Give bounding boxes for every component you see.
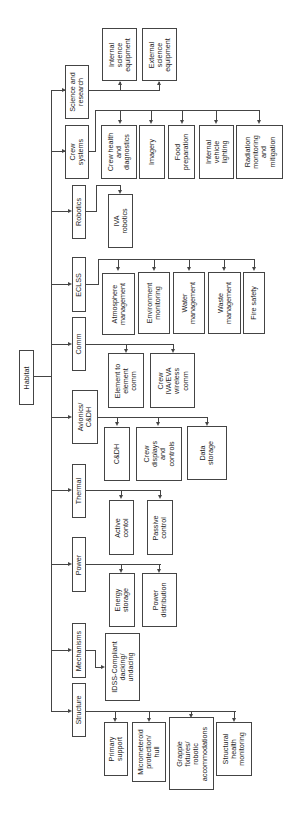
node-label: Thermal — [75, 478, 83, 504]
arrow-icon — [118, 81, 122, 85]
node-radiation-monitoring: Radiation monitoring and mitigation — [236, 125, 283, 179]
connector — [51, 344, 69, 345]
node-label: IDSS-Compliant dacking/ undacing — [110, 641, 135, 693]
connector — [86, 211, 96, 212]
connector — [51, 650, 69, 651]
node-label: IVA robotics — [112, 208, 128, 233]
node-idss-docking: IDSS-Compliant dacking/ undacing — [105, 633, 140, 701]
node-eclss: ECLSS — [72, 257, 86, 312]
node-element-to-element: Element to element comm — [108, 353, 144, 408]
node-crew-displays: Crew displays and controls — [136, 427, 182, 481]
node-fire-safety: Fire safety — [243, 272, 265, 334]
node-label: Crew health and diagnostics — [107, 133, 132, 171]
node-mechanisms: Mechanisms — [72, 623, 86, 678]
node-label: Primary support — [108, 737, 124, 762]
node-micrometeroid: Micrometeroid protection/ hull — [132, 722, 166, 782]
node-grapple-fixtures: Grapple fixtures/ robotic accommodations — [169, 717, 214, 790]
node-label: Power distribution — [151, 583, 167, 618]
node-label: Active contol — [113, 518, 129, 538]
node-power-distribution: Power distribution — [142, 573, 177, 627]
node-food-preparation: Food preparation — [168, 125, 195, 179]
connector — [89, 90, 160, 91]
node-label: Internal science equipment — [107, 38, 132, 72]
node-label: Mechanisms — [75, 630, 83, 670]
node-internal-lighting: Internal vehicle lighting — [199, 125, 234, 179]
node-label: Element to element comm — [114, 363, 139, 397]
node-structure: Structure — [72, 683, 86, 737]
node-label: C&DH — [113, 444, 121, 464]
node-label: Crew systems — [69, 139, 85, 165]
node-imagery: Imagery — [139, 125, 165, 179]
arrow-icon — [180, 120, 184, 124]
connector — [51, 490, 69, 491]
connector — [98, 259, 99, 285]
node-label: Atmosphere management — [110, 283, 126, 325]
node-crew-systems: Crew systems — [65, 125, 89, 179]
node-environment-monitoring: Environment monitoring — [138, 272, 170, 334]
node-label: Structural health monitoring — [222, 732, 247, 766]
node-water-management: Water management — [173, 272, 205, 334]
arrow-icon — [115, 422, 119, 426]
arrow-icon — [119, 495, 123, 499]
node-data-storage: Data storage — [187, 426, 227, 480]
node-habitat: Habitat — [19, 350, 34, 405]
node-passive-control: Passive control — [147, 500, 173, 555]
node-label: Food preparation — [173, 134, 189, 170]
arrow-icon — [116, 267, 120, 271]
node-label: Comm — [75, 333, 83, 354]
node-comm: Comm — [72, 317, 86, 371]
node-power: Power — [72, 537, 86, 592]
node-label: Robotics — [75, 198, 83, 226]
arrow-icon — [214, 120, 218, 124]
connector — [96, 185, 121, 186]
node-label: Avionics/ C&DH — [77, 403, 93, 432]
arrow-icon — [152, 267, 156, 271]
node-atmosphere-management: Atmosphere management — [102, 273, 135, 335]
node-label: Structure — [75, 695, 83, 724]
node-robotics: Robotics — [72, 185, 86, 239]
arrow-icon — [149, 120, 153, 124]
connector — [51, 284, 69, 285]
connector — [51, 564, 69, 565]
node-label: Water management — [181, 282, 197, 324]
connector — [86, 650, 95, 651]
node-crew-iva-eva: Crew IVA/EVA wireless comm — [150, 353, 195, 408]
node-label: Fire safety — [250, 286, 258, 320]
node-iva-robotics: IVA robotics — [108, 194, 133, 248]
node-label: Power — [75, 554, 83, 574]
connector — [86, 490, 161, 491]
arrow-icon — [222, 267, 226, 271]
node-thermal: Thermal — [72, 464, 86, 518]
connector — [86, 564, 161, 565]
connector — [95, 110, 96, 152]
connector — [86, 711, 236, 712]
node-label: External science equipment — [147, 38, 172, 72]
node-primary-support: Primary support — [104, 722, 128, 776]
connector — [96, 185, 97, 212]
node-label: Science and research — [69, 72, 85, 112]
arrow-icon — [157, 81, 161, 85]
node-label: Energy storage — [114, 588, 130, 612]
arrow-icon — [252, 267, 256, 271]
connector — [95, 650, 96, 667]
connector — [86, 284, 98, 285]
node-label: Habitat — [22, 366, 30, 389]
arrow-icon — [158, 495, 162, 499]
node-label: Environment monitoring — [146, 283, 162, 323]
node-label: Passive control — [152, 515, 168, 540]
node-label: Crew displays and controls — [143, 441, 176, 467]
node-energy-storage: Energy storage — [109, 573, 135, 627]
main-trunk-line — [51, 90, 52, 712]
node-structural-health: Structural health monitoring — [216, 722, 252, 776]
node-active-control: Active contol — [109, 500, 134, 555]
node-crew-health: Crew health and diagnostics — [101, 125, 137, 179]
connector — [51, 417, 69, 418]
arrow-icon — [257, 120, 261, 124]
arrow-icon — [156, 422, 160, 426]
node-internal-science: Internal science equipment — [102, 28, 137, 81]
connector — [97, 417, 208, 418]
node-label: Crew IVA/EVA wireless comm — [156, 367, 189, 394]
arrow-icon — [118, 120, 122, 124]
node-label: Data storage — [199, 441, 215, 465]
node-label: Internal vehicle lighting — [204, 140, 229, 164]
